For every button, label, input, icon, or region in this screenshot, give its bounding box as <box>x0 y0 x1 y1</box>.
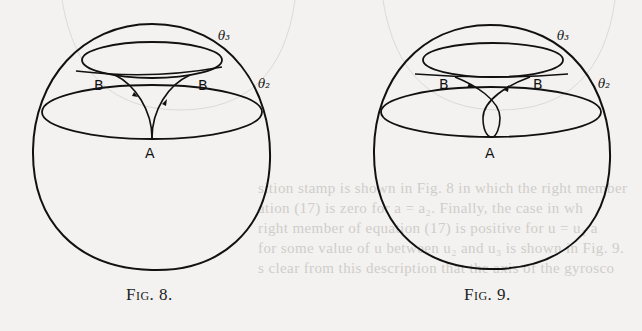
fig8-label-a: A <box>145 145 155 161</box>
fig9-label-b-left: B <box>439 76 449 92</box>
fig8-label-b-right: B <box>198 77 208 93</box>
figure-labels: θ₃ θ₂ B B A θ₃ θ₂ B B A <box>0 0 642 331</box>
fig8-label-b-left: B <box>94 77 104 93</box>
fig9-caption: Fig. 9. <box>464 285 511 305</box>
fig9-label-theta2: θ₂ <box>598 77 610 91</box>
fig9-label-b-right: B <box>533 76 543 92</box>
fig8-label-theta3: θ₃ <box>218 29 230 43</box>
fig9-label-theta3: θ₃ <box>557 29 569 43</box>
fig8-label-theta2: θ₂ <box>258 77 270 91</box>
fig9-label-a: A <box>485 145 495 161</box>
scanned-page: sition stamp is shown in Fig. 8 in which… <box>0 0 642 331</box>
fig8-caption: Fig. 8. <box>126 285 173 305</box>
